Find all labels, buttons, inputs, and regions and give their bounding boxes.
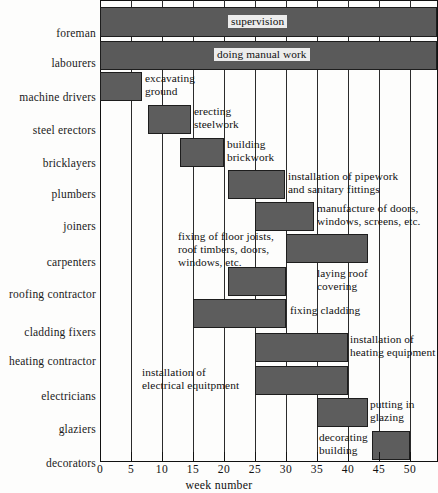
caption-excavating-ground: excavating ground bbox=[145, 72, 195, 98]
caption-decorating-building: decorating building bbox=[319, 431, 368, 457]
row-label-machine-drivers: machine drivers bbox=[19, 91, 96, 103]
tick-label-50: 50 bbox=[398, 463, 422, 475]
caption-building-brickwork: building brickwork bbox=[227, 138, 274, 164]
x-axis-line bbox=[100, 461, 438, 462]
tick-label-20: 20 bbox=[212, 463, 236, 475]
caption-installation-heating: installation of heating equipment bbox=[350, 333, 435, 359]
row-label-plumbers: plumbers bbox=[52, 188, 96, 200]
tick-label-10: 10 bbox=[150, 463, 174, 475]
caption-erecting-steelwork: erecting steelwork bbox=[194, 105, 239, 131]
row-label-heating-contractor: heating contractor bbox=[9, 355, 96, 367]
bar-electricians-installation bbox=[255, 366, 348, 395]
tick-mark-15 bbox=[193, 452, 194, 461]
bar-steel-erectors-erecting bbox=[148, 105, 191, 134]
caption-installation-pipework: installation of pipework and sanitary fi… bbox=[288, 170, 398, 196]
row-label-roofing-contractor: roofing contractor bbox=[9, 288, 96, 300]
tick-mark-45 bbox=[379, 452, 380, 461]
tick-mark-40 bbox=[348, 452, 349, 461]
row-label-glaziers: glaziers bbox=[59, 423, 96, 435]
row-label-foreman: foreman bbox=[56, 27, 96, 39]
plot-area: supervision doing manual work excavating… bbox=[100, 0, 438, 462]
bar-bricklayers-brickwork bbox=[180, 138, 224, 167]
row-label-steel-erectors: steel erectors bbox=[33, 124, 96, 136]
bar-carpenters-fixing bbox=[286, 234, 368, 263]
caption-installation-electrical: installation of electrical equitpment bbox=[142, 366, 239, 392]
caption-manufacture-doors: manufacture of doors, windows, screens, … bbox=[317, 202, 421, 228]
bar-roofing-contractor-laying bbox=[228, 267, 286, 296]
bar-glaziers-glazing bbox=[317, 398, 368, 427]
tick-label-25: 25 bbox=[243, 463, 267, 475]
row-label-joiners: joiners bbox=[63, 220, 96, 232]
tick-label-35: 35 bbox=[305, 463, 329, 475]
row-label-carpenters: carpenters bbox=[47, 256, 96, 268]
tick-label-15: 15 bbox=[181, 463, 205, 475]
tick-label-40: 40 bbox=[336, 463, 360, 475]
x-axis-title: week number bbox=[0, 478, 438, 493]
bar-machine-drivers-excavating bbox=[100, 72, 142, 101]
bar-joiners-manufacture bbox=[255, 202, 314, 231]
tick-label-0: 0 bbox=[88, 463, 112, 475]
bar-plumbers-pipework bbox=[228, 170, 285, 199]
caption-supervision: supervision bbox=[228, 15, 287, 28]
bar-decorators-decorating bbox=[372, 431, 410, 460]
caption-putting-in-glazing: putting in glazing bbox=[370, 398, 415, 424]
tick-label-45: 45 bbox=[367, 463, 391, 475]
tick-mark-30 bbox=[286, 452, 287, 461]
tick-label-5: 5 bbox=[119, 463, 143, 475]
bar-heating-contractor-installation bbox=[255, 333, 348, 362]
row-label-electricians: electricians bbox=[41, 390, 96, 402]
caption-laying-roof-covering: laying roof covering bbox=[317, 267, 368, 293]
bar-cladding-fixers-cladding bbox=[193, 299, 286, 328]
plot-top-border bbox=[100, 0, 438, 1]
tick-label-30: 30 bbox=[274, 463, 298, 475]
tick-mark-10 bbox=[162, 452, 163, 461]
tick-mark-5 bbox=[131, 452, 132, 461]
tick-mark-50 bbox=[410, 452, 411, 461]
tick-mark-20 bbox=[224, 452, 225, 461]
row-label-cladding-fixers: cladding fixers bbox=[24, 326, 96, 338]
row-label-bricklayers: bricklayers bbox=[43, 157, 96, 169]
row-label-labourers: labourers bbox=[51, 57, 96, 69]
caption-fixing-cladding: fixing cladding bbox=[290, 304, 360, 317]
tick-mark-0 bbox=[100, 452, 101, 461]
tick-mark-35 bbox=[317, 452, 318, 461]
tick-mark-25 bbox=[255, 452, 256, 461]
gantt-chart: foreman labourers machine drivers steel … bbox=[0, 0, 438, 493]
caption-fixing-floor-joists: fixing of floor joists, roof timbers, do… bbox=[178, 230, 274, 269]
caption-doing-manual-work: doing manual work bbox=[214, 48, 310, 61]
